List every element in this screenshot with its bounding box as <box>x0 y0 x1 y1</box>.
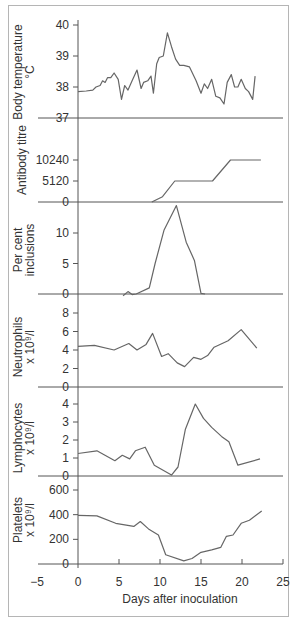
panel-temperature: 37383940Body temperature°C <box>11 18 283 125</box>
lymphocytes-y-tick-label: 3 <box>62 415 69 429</box>
x-axis-label: Days after inoculation <box>122 592 237 606</box>
lymphocytes-y-axis-label: x 10⁹/l <box>23 421 37 455</box>
temperature-series-line <box>78 33 255 104</box>
panel-neutrophils: 02468Neutrophilsx 10⁹/l <box>11 306 283 394</box>
neutrophils-series-line <box>78 330 257 367</box>
multi-panel-chart: 37383940Body temperature°C0512010240Anti… <box>0 0 295 624</box>
panel-platelets: 0200400600Plateletsx 10⁹/l <box>11 483 283 571</box>
x-tick-label: −5 <box>30 575 44 589</box>
neutrophils-y-tick-label: 0 <box>62 380 69 394</box>
neutrophils-y-axis-label: x 10⁹/l <box>23 330 37 364</box>
x-tick-label: 25 <box>276 575 290 589</box>
platelets-y-tick-label: 200 <box>49 532 69 546</box>
x-tick-label: 15 <box>194 575 208 589</box>
panel-inclusions: 0510Per centinclusions <box>11 206 283 301</box>
lymphocytes-y-tick-label: 4 <box>62 397 69 411</box>
panels: 37383940Body temperature°C0512010240Anti… <box>11 18 283 571</box>
inclusions-y-axis-label: inclusions <box>23 224 37 277</box>
temperature-y-tick-label: 39 <box>56 49 70 63</box>
panel-antibody: 0512010240Antibody titre <box>15 125 283 209</box>
neutrophils-y-tick-label: 4 <box>62 343 69 357</box>
platelets-y-tick-label: 0 <box>62 557 69 571</box>
temperature-y-tick-label: 38 <box>56 80 70 94</box>
neutrophils-y-tick-label: 2 <box>62 362 69 376</box>
temperature-y-axis-label: °C <box>23 65 37 79</box>
neutrophils-y-tick-label: 6 <box>62 325 69 339</box>
x-tick-label: 20 <box>235 575 249 589</box>
inclusions-y-tick-label: 0 <box>62 287 69 301</box>
lymphocytes-y-tick-label: 1 <box>62 451 69 465</box>
lymphocytes-series-line <box>78 404 260 475</box>
panel-lymphocytes: 01234Lymphocytesx 10⁹/l <box>11 397 283 483</box>
antibody-y-tick-label: 5120 <box>42 174 69 188</box>
inclusions-series-line <box>123 206 205 296</box>
inclusions-y-tick-label: 5 <box>62 257 69 271</box>
antibody-y-tick-label: 0 <box>62 195 69 209</box>
platelets-y-tick-label: 600 <box>49 483 69 497</box>
lymphocytes-y-tick-label: 2 <box>62 433 69 447</box>
lymphocytes-y-tick-label: 0 <box>62 469 69 483</box>
antibody-y-axis-label: Antibody titre <box>15 125 29 195</box>
platelets-y-tick-label: 400 <box>49 508 69 522</box>
antibody-series-line <box>152 160 261 202</box>
temperature-y-tick-label: 40 <box>56 18 70 32</box>
temperature-y-tick-label: 37 <box>56 111 70 125</box>
x-tick-label: 0 <box>75 575 82 589</box>
antibody-y-tick-label: 10240 <box>36 153 70 167</box>
inclusions-y-tick-label: 10 <box>56 226 70 240</box>
platelets-y-axis-label: x 10⁹/l <box>23 503 37 537</box>
x-tick-label: 5 <box>116 575 123 589</box>
neutrophils-y-tick-label: 8 <box>62 306 69 320</box>
platelets-series-line <box>78 511 262 561</box>
x-tick-label: 10 <box>153 575 167 589</box>
